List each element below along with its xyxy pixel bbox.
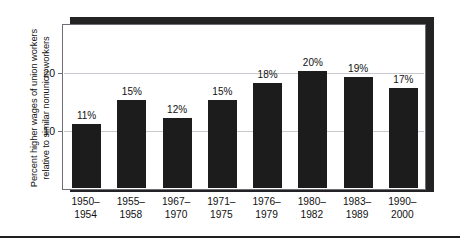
x-axis-label: 1976–1979: [244, 196, 289, 221]
bar-value-label: 12%: [167, 104, 187, 115]
bar[interactable]: [253, 83, 282, 188]
x-axis-label: 1955–1958: [108, 196, 153, 221]
x-axis-label-line-2: 1975: [199, 209, 244, 222]
x-axis-tick-labels: 1950–19541955–19581967–19701971–19751976…: [63, 196, 425, 230]
bar[interactable]: [117, 100, 146, 188]
x-axis-label-line-1: 1990–: [380, 196, 425, 209]
bar-slot: 17%: [389, 26, 418, 188]
x-axis-label-line-1: 1950–: [63, 196, 108, 209]
bar-slot: 15%: [117, 26, 146, 188]
bars-group: 11%15%12%15%18%20%19%17%: [64, 26, 424, 188]
bar-slot: 11%: [72, 26, 101, 188]
bar-value-label: 15%: [212, 86, 232, 97]
bar[interactable]: [389, 88, 418, 188]
x-axis-label: 1967–1970: [154, 196, 199, 221]
bar[interactable]: [208, 100, 237, 188]
bar-value-label: 15%: [122, 86, 142, 97]
bottom-divider-rule: [0, 236, 460, 238]
plot-frame: 1020 11%15%12%15%18%20%19%17%: [62, 24, 426, 190]
x-axis-label-line-2: 2000: [380, 209, 425, 222]
x-axis-label-line-2: 1982: [289, 209, 334, 222]
x-axis-label-line-1: 1983–: [335, 196, 380, 209]
y-axis-title: Percent higher wages of union workers re…: [22, 18, 58, 198]
bar[interactable]: [72, 124, 101, 188]
x-axis-label-line-2: 1958: [108, 209, 153, 222]
x-axis-label-line-2: 1954: [63, 209, 108, 222]
y-axis-title-line-1: Percent higher wages of union workers: [28, 29, 39, 187]
y-tick-mark-10: [58, 131, 63, 132]
bar-chart-figure: Percent higher wages of union workers re…: [0, 0, 460, 245]
bar-slot: 12%: [163, 26, 192, 188]
x-axis-label-line-2: 1970: [154, 209, 199, 222]
x-axis-label: 1980–1982: [289, 196, 334, 221]
plot-area: 1020 11%15%12%15%18%20%19%17%: [64, 26, 424, 188]
bar[interactable]: [163, 118, 192, 188]
bar-slot: 19%: [344, 26, 373, 188]
x-axis-label-line-1: 1976–: [244, 196, 289, 209]
bar-value-label: 19%: [348, 63, 368, 74]
x-axis-label-line-1: 1971–: [199, 196, 244, 209]
x-axis-label-line-1: 1980–: [289, 196, 334, 209]
bar-slot: 15%: [208, 26, 237, 188]
x-axis-label: 1950–1954: [63, 196, 108, 221]
y-tick-mark-20: [58, 73, 63, 74]
bar-value-label: 17%: [393, 74, 413, 85]
bar-value-label: 20%: [303, 57, 323, 68]
x-axis-label-line-2: 1989: [335, 209, 380, 222]
x-axis-label-line-2: 1979: [244, 209, 289, 222]
bar[interactable]: [298, 71, 327, 188]
x-axis-label-line-1: 1967–: [154, 196, 199, 209]
x-axis-label: 1990–2000: [380, 196, 425, 221]
bar-slot: 20%: [298, 26, 327, 188]
x-axis-label-line-1: 1955–: [108, 196, 153, 209]
x-axis-label: 1971–1975: [199, 196, 244, 221]
y-tick-label-20: 20: [43, 67, 55, 79]
bar-slot: 18%: [253, 26, 282, 188]
bar[interactable]: [344, 77, 373, 188]
bar-value-label: 18%: [258, 69, 278, 80]
bar-value-label: 11%: [77, 110, 96, 121]
x-axis-label: 1983–1989: [335, 196, 380, 221]
y-axis-title-line-2: relative to similar nonunion workers: [40, 29, 52, 187]
y-tick-label-10: 10: [43, 125, 55, 137]
